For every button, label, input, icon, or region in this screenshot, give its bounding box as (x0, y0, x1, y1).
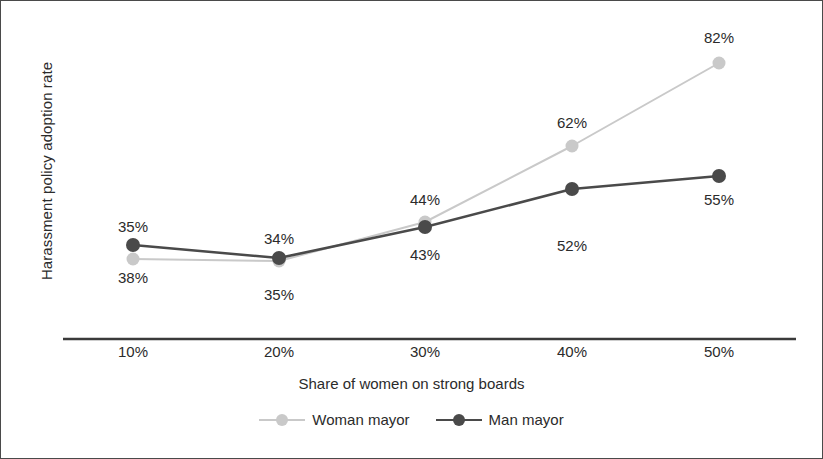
data-label-woman-mayor-50: 82% (684, 29, 754, 46)
legend-dot-swatch (276, 414, 288, 426)
data-point-woman-mayor-40 (566, 140, 579, 153)
data-label-woman-mayor-30: 43% (390, 246, 460, 263)
data-label-man-mayor-10: 35% (98, 218, 168, 235)
data-point-man-mayor-30 (418, 220, 432, 234)
chart-legend: Woman mayorMan mayor (1, 411, 822, 428)
x-tick-label-20: 20% (239, 343, 319, 360)
data-label-woman-mayor-40: 62% (537, 114, 607, 131)
data-point-man-mayor-20 (272, 251, 286, 265)
legend-item-man-mayor[interactable]: Man mayor (436, 411, 564, 428)
data-point-man-mayor-10 (126, 238, 140, 252)
legend-label: Man mayor (489, 411, 564, 428)
data-label-man-mayor-40: 52% (537, 237, 607, 254)
legend-item-woman-mayor[interactable]: Woman mayor (259, 411, 409, 428)
x-tick-label-30: 30% (385, 343, 465, 360)
legend-label: Woman mayor (312, 411, 409, 428)
x-axis-label: Share of women on strong boards (1, 375, 822, 392)
data-point-man-mayor-40 (565, 182, 579, 196)
x-tick-label-10: 10% (93, 343, 173, 360)
data-label-woman-mayor-20: 35% (244, 286, 314, 303)
series-markers-group (126, 57, 726, 268)
legend-dot-swatch (453, 414, 465, 426)
data-label-man-mayor-50: 55% (684, 191, 754, 208)
x-tick-label-40: 40% (532, 343, 612, 360)
data-point-woman-mayor-50 (713, 57, 726, 70)
data-label-woman-mayor-10: 38% (98, 269, 168, 286)
data-label-man-mayor-20: 34% (244, 230, 314, 247)
data-label-man-mayor-30: 44% (390, 191, 460, 208)
chart-figure: Harassment policy adoption rate 10%20%30… (0, 0, 823, 459)
data-point-man-mayor-50 (712, 169, 726, 183)
legend-key-icon (259, 413, 305, 427)
x-tick-label-50: 50% (679, 343, 759, 360)
data-point-woman-mayor-10 (127, 253, 140, 266)
legend-key-icon (436, 413, 482, 427)
